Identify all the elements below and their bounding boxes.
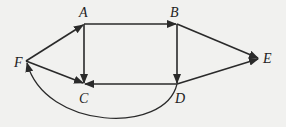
node-b-label: B	[170, 6, 179, 20]
edge-d-e	[177, 59, 258, 84]
node-d-label: D	[175, 92, 185, 106]
graph-diagram: A B C D E F	[0, 0, 286, 127]
node-a-label: A	[79, 6, 88, 20]
edge-d-f-curved	[27, 63, 177, 118]
edge-b-e	[177, 24, 258, 58]
node-f-label: F	[14, 56, 23, 70]
edge-f-a	[26, 25, 83, 61]
node-e-label: E	[263, 52, 272, 66]
node-c-label: C	[79, 92, 88, 106]
graph-edges	[0, 0, 286, 127]
